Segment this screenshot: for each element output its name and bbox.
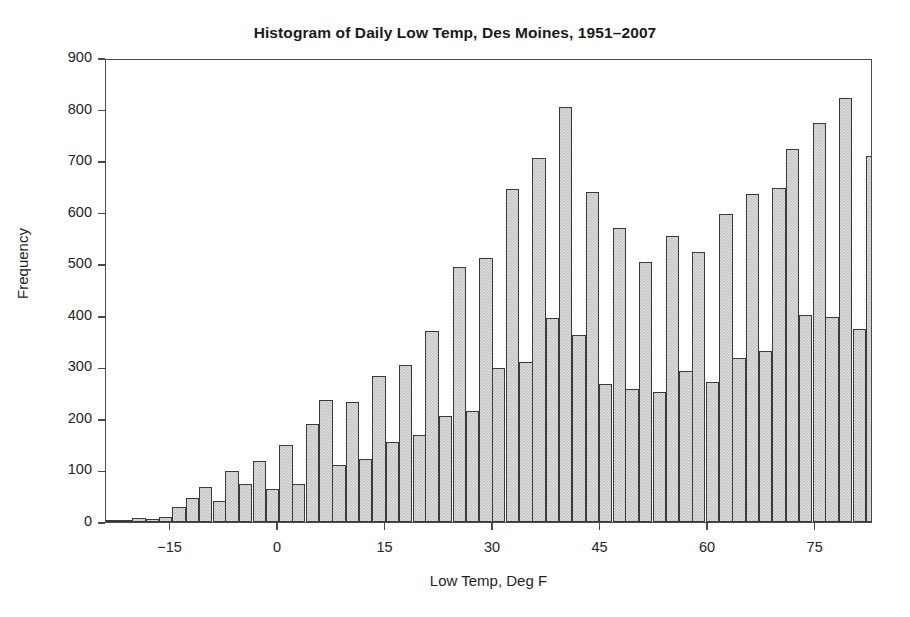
histogram-bar <box>372 376 385 522</box>
histogram-bar <box>839 98 852 522</box>
x-tick-label: 15 <box>376 539 392 555</box>
histogram-bar <box>679 371 692 522</box>
y-axis-title: Frequency <box>14 164 31 364</box>
x-tick-mark <box>491 523 493 530</box>
histogram-bar <box>853 329 866 522</box>
chart-title: Histogram of Daily Low Temp, Des Moines,… <box>0 24 910 42</box>
y-tick-mark <box>98 161 105 163</box>
histogram-bar <box>306 424 319 522</box>
plot-area <box>105 59 872 523</box>
x-tick-mark <box>814 523 816 530</box>
histogram-bar <box>266 489 279 522</box>
histogram-bar <box>359 459 372 522</box>
histogram-bar <box>425 331 438 522</box>
histogram-bar <box>466 411 479 522</box>
histogram-bar <box>479 258 492 522</box>
histogram-bar <box>653 392 666 522</box>
y-tick-label: 0 <box>0 513 92 529</box>
y-tick-mark <box>98 213 105 215</box>
y-tick-mark <box>98 264 105 266</box>
histogram-bar <box>786 149 799 522</box>
x-tick-label: 60 <box>699 539 715 555</box>
histogram-bar <box>279 445 292 522</box>
x-tick-label: −15 <box>157 539 182 555</box>
histogram-bar <box>746 194 759 522</box>
y-tick-mark <box>98 58 105 60</box>
histogram-bar <box>825 317 838 522</box>
histogram-bar <box>799 315 812 522</box>
histogram-bar <box>439 416 452 522</box>
histogram-bar <box>213 501 226 522</box>
histogram-bar <box>225 471 238 522</box>
histogram-bar <box>572 335 585 522</box>
histogram-bar <box>759 351 772 522</box>
x-tick-mark <box>276 523 278 530</box>
histogram-bar <box>119 520 132 522</box>
histogram-bar <box>559 107 572 522</box>
y-tick-label: 900 <box>0 49 92 65</box>
histogram-bar <box>732 358 745 522</box>
histogram-bar <box>199 487 212 522</box>
histogram-bar <box>492 368 505 522</box>
histogram-bar <box>719 214 732 522</box>
histogram-bar <box>519 362 532 522</box>
y-tick-mark <box>98 471 105 473</box>
histogram-bar <box>813 123 826 522</box>
y-tick-label: 800 <box>0 101 92 117</box>
histogram-bar <box>253 461 266 522</box>
histogram-bar <box>532 158 545 522</box>
histogram-bar <box>239 484 252 522</box>
histogram-bar <box>599 384 612 522</box>
x-tick-label: 45 <box>592 539 608 555</box>
x-tick-mark <box>384 523 386 530</box>
y-tick-mark <box>98 522 105 524</box>
x-tick-mark <box>706 523 708 530</box>
histogram-bar <box>146 519 159 522</box>
histogram-bar <box>692 252 705 522</box>
y-tick-mark <box>98 316 105 318</box>
histogram-bar <box>172 507 185 522</box>
bars-layer <box>106 60 871 522</box>
histogram-bar <box>625 389 638 522</box>
histogram-bar <box>706 382 719 522</box>
histogram-figure: Histogram of Daily Low Temp, Des Moines,… <box>0 0 910 617</box>
y-tick-mark <box>98 110 105 112</box>
histogram-bar <box>319 400 332 522</box>
x-tick-mark <box>599 523 601 530</box>
x-tick-label: 0 <box>273 539 281 555</box>
x-tick-mark <box>169 523 171 530</box>
histogram-bar <box>159 517 172 522</box>
histogram-bar <box>413 435 426 522</box>
histogram-bar <box>132 518 145 522</box>
histogram-bar <box>399 365 412 522</box>
histogram-bar <box>639 262 652 522</box>
histogram-bar <box>613 228 626 522</box>
x-tick-label: 75 <box>807 539 823 555</box>
histogram-bar <box>506 189 519 522</box>
histogram-bar <box>586 192 599 522</box>
histogram-bar <box>346 402 359 522</box>
histogram-bar <box>186 498 199 522</box>
histogram-bar <box>386 442 399 522</box>
histogram-bar <box>292 484 305 522</box>
y-tick-label: 100 <box>0 461 92 477</box>
y-tick-mark <box>98 368 105 370</box>
histogram-bar <box>866 156 871 522</box>
histogram-bar <box>666 236 679 522</box>
x-tick-label: 30 <box>484 539 500 555</box>
x-axis-title: Low Temp, Deg F <box>105 572 872 589</box>
y-tick-label: 200 <box>0 410 92 426</box>
histogram-bar <box>453 267 466 522</box>
histogram-bar <box>772 188 785 522</box>
histogram-bar <box>332 465 345 522</box>
histogram-bar <box>546 318 559 522</box>
y-tick-mark <box>98 419 105 421</box>
histogram-bar <box>106 520 119 522</box>
